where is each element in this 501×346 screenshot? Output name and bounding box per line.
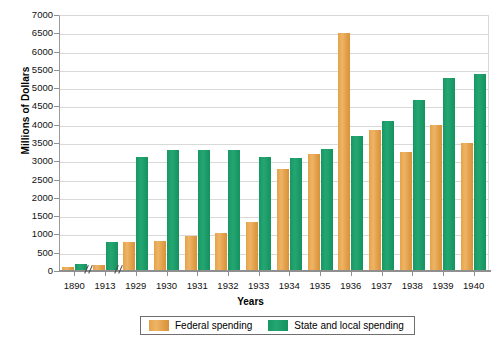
- bar-federal: [430, 125, 442, 271]
- x-axis-tick-mark: [228, 271, 229, 276]
- state-local-swatch-icon: [268, 320, 288, 331]
- bar-state-local: [321, 149, 333, 271]
- x-axis-tick-mark: [105, 271, 106, 276]
- bar-group: [430, 15, 455, 271]
- bar-federal: [185, 236, 197, 271]
- bar-state-local: [167, 150, 179, 271]
- legend-item-state-local: State and local spending: [268, 320, 404, 331]
- bar-group: [338, 15, 363, 271]
- bar-federal: [308, 154, 320, 271]
- bar-federal: [215, 233, 227, 271]
- y-axis-tick-label: 3500: [7, 138, 53, 148]
- x-axis-tick-mark: [259, 271, 260, 276]
- bar-state-local: [351, 136, 363, 271]
- x-axis-tick-mark: [289, 271, 290, 276]
- y-axis-tick-label: 7000: [7, 10, 53, 20]
- x-axis-tick-mark: [443, 271, 444, 276]
- y-axis-tick-label: 1000: [7, 229, 53, 239]
- bar-federal: [369, 130, 381, 271]
- y-axis-tick-label: 2000: [7, 193, 53, 203]
- bar-group: [400, 15, 425, 271]
- bar-group: [308, 15, 333, 271]
- bar-federal: [154, 241, 166, 271]
- bar-federal: [246, 222, 258, 271]
- bar-federal: [338, 33, 350, 271]
- y-axis-tick-label: 4500: [7, 101, 53, 111]
- y-axis-tick-label: 500: [7, 248, 53, 258]
- y-axis-tick-label: 4000: [7, 120, 53, 130]
- y-axis-tick-label: 3000: [7, 156, 53, 166]
- bar-group: [461, 15, 486, 271]
- bar-group: [277, 15, 302, 271]
- bar-series-container: [59, 15, 489, 271]
- x-axis-tick-mark: [320, 271, 321, 276]
- bar-state-local: [259, 157, 271, 271]
- bar-state-local: [382, 121, 394, 271]
- x-axis-tick-mark: [474, 271, 475, 276]
- x-axis-title: Years: [0, 296, 501, 307]
- y-axis-tick-label: 0: [7, 266, 53, 276]
- bar-group: [93, 15, 118, 271]
- x-axis-tick-mark: [167, 271, 168, 276]
- x-axis-tick-mark: [351, 271, 352, 276]
- y-axis-tick-label: 5000: [7, 83, 53, 93]
- axis-break-mark: [113, 264, 127, 276]
- bar-group: [369, 15, 394, 271]
- bar-state-local: [290, 158, 302, 271]
- chart-legend: Federal spending State and local spendin…: [140, 316, 415, 335]
- legend-label-state-local: State and local spending: [294, 320, 404, 331]
- x-axis-tick-mark: [74, 271, 75, 276]
- bar-federal: [277, 169, 289, 271]
- bar-group: [154, 15, 179, 271]
- bar-state-local: [228, 150, 240, 271]
- federal-swatch-icon: [149, 320, 169, 331]
- y-axis-tick-label: 6500: [7, 28, 53, 38]
- y-axis-tick-label: 6000: [7, 47, 53, 57]
- bar-state-local: [413, 100, 425, 271]
- y-axis-tick-label: 1500: [7, 211, 53, 221]
- bar-group: [215, 15, 240, 271]
- bar-federal: [461, 143, 473, 271]
- bar-group: [246, 15, 271, 271]
- bar-state-local: [198, 150, 210, 271]
- bar-federal: [400, 152, 412, 271]
- x-axis-tick-mark: [197, 271, 198, 276]
- x-axis-tick-mark: [412, 271, 413, 276]
- bar-chart: Millions of Dollars 70006500600055005000…: [0, 0, 501, 346]
- bar-group: [62, 15, 87, 271]
- axis-break-mark: [83, 264, 97, 276]
- x-axis-tick-mark: [136, 271, 137, 276]
- bar-state-local: [136, 157, 148, 271]
- bar-state-local: [443, 78, 455, 271]
- legend-item-federal: Federal spending: [149, 320, 252, 331]
- y-axis-tick-label: 2500: [7, 175, 53, 185]
- bar-group: [123, 15, 148, 271]
- y-axis-tick-label: 5500: [7, 65, 53, 75]
- x-axis-tick-label: 1940: [454, 280, 494, 291]
- bar-group: [185, 15, 210, 271]
- x-axis-tick-mark: [382, 271, 383, 276]
- bar-state-local: [474, 74, 486, 271]
- legend-label-federal: Federal spending: [175, 320, 252, 331]
